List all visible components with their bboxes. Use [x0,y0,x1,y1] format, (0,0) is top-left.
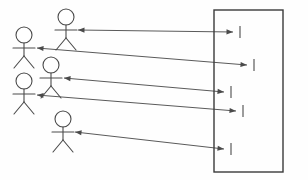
ports-layer [231,26,254,155]
actor-bottom-leg-left [53,140,63,152]
connector-actor1-to-system-line [78,30,233,32]
actor-upper-left-head-icon [16,27,32,43]
boundary-layer [214,10,283,172]
actor-bottom[interactable] [52,111,74,152]
connector-actor4-to-system[interactable] [37,93,236,113]
actor-upper-left-leg-left [14,56,24,68]
connector-actor2-to-system[interactable] [37,46,247,67]
actor-lower-left-leg-right [24,102,34,114]
actor-middle-head-icon [43,57,59,73]
connector-actor2-to-system-line [37,48,247,65]
connector-actor5-to-system-line [75,132,224,149]
connector-actor4-to-system-line [37,95,236,111]
actor-top-leg-right [66,38,76,50]
connector-actor1-to-system-arrowhead-right [226,29,233,34]
actor-lower-left-head-icon [16,73,32,89]
connector-actor5-to-system-arrowhead-right [217,146,224,151]
actor-top-head-icon [58,9,74,25]
actor-top[interactable] [55,9,77,50]
connector-actor3-to-system[interactable] [64,76,224,94]
actor-lower-left-leg-left [14,102,24,114]
actors-layer [13,9,77,152]
actor-bottom-head-icon [55,111,71,127]
actor-upper-left[interactable] [13,27,35,68]
connector-actor1-to-system-arrowhead-left [78,27,85,32]
diagram-canvas [0,0,308,180]
connector-actor5-to-system-arrowhead-left [75,130,82,135]
actor-lower-left[interactable] [13,73,35,114]
actor-top-leg-left [56,38,66,50]
actor-bottom-leg-right [63,140,73,152]
connector-actor5-to-system[interactable] [75,130,224,151]
actor-upper-left-leg-right [24,56,34,68]
actor-middle[interactable] [40,57,62,98]
diagram-svg [0,0,308,180]
connector-actor1-to-system[interactable] [78,27,233,34]
connector-actor3-to-system-line [64,78,224,92]
system-boundary-rect[interactable] [214,10,283,172]
